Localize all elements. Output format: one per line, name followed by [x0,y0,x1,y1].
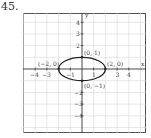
point-label-top: (0, 1) [84,49,100,56]
y-tick-label: 4 [76,19,80,26]
point-label-right: (2, 0) [107,60,123,67]
y-tick-label: −3 [74,100,83,107]
x-tick-label: −1 [66,71,75,78]
x-tick-label: −3 [42,71,51,78]
x-axis-label: x [141,60,145,67]
point-label-left: (−2, 0) [38,60,59,67]
y-axis-label: y [84,11,89,19]
y-tick-label: 2 [76,42,80,49]
point-label-bottom: (0, −1) [84,82,105,89]
x-tick-label: 4 [127,71,131,78]
y-tick-label: −2 [74,89,83,96]
y-tick-label: 3 [76,30,80,37]
x-tick-label: −4 [30,71,39,78]
x-tick-label: 1 [92,71,96,78]
ellipse-graph: y x −4 −3 −1 1 3 4 4 3 2 −2 −3 −4 (0, 1)… [0,0,151,138]
x-tick-label: 3 [116,71,120,78]
y-tick-label: −4 [74,112,83,119]
